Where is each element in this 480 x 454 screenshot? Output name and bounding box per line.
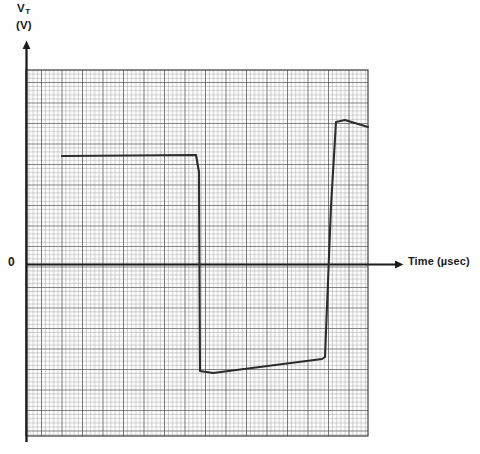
plot-canvas [0,0,480,454]
graph-paper-grid [26,70,368,436]
waveform-figure: VT (V) 0 Time (µsec) [0,0,480,454]
